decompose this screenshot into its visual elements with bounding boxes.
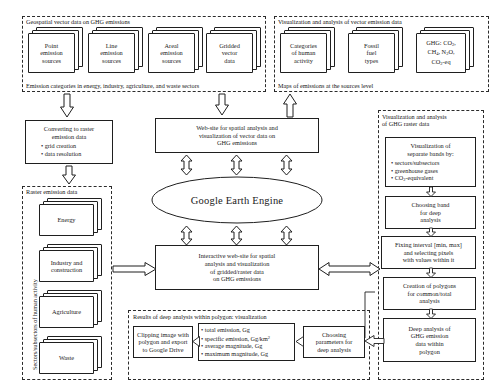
arrow-choosing-band-to-fixing-interval (426, 228, 436, 237)
vis-bands-bullet: • sectors/subsectors (391, 159, 439, 167)
stack-label-line: data (224, 57, 235, 65)
stack-card-front: Waste (39, 342, 94, 374)
converting-line-1: Converting to raster (44, 125, 94, 133)
docstack-gridded-vector-data[interactable]: Gridded vector data (206, 27, 261, 75)
diagram-canvas: Geospatial vector data on GHG emissions … (0, 0, 497, 390)
stack-label-line: construction (51, 266, 82, 274)
stack-label-line: Point (45, 42, 58, 50)
stack-label-line: Line (106, 42, 118, 50)
clipping-line-3: to Google Drive (143, 346, 184, 354)
panel-deep-analysis-results-title: Results of deep analysis within polygon:… (133, 313, 267, 320)
stack-card-front: Point emission sources (28, 33, 75, 73)
stack-label-line: of human (292, 49, 316, 57)
arrow-website-gee-left (180, 155, 193, 175)
vis-bands-bullet: • CO2-equivalent (391, 174, 439, 184)
arrow-website-gee-right (280, 155, 293, 175)
arrow-gee-raster-center (230, 226, 243, 245)
metric-bullet: • total emission, Gg (201, 326, 250, 334)
stack-label-line: Gridded (219, 42, 240, 50)
stack-label-line: Waste (59, 354, 74, 362)
docstack-areal-emission-sources[interactable]: Areal emission sources (148, 27, 203, 75)
box-interactive-raster-website[interactable]: Interactive web-site for spatial analysi… (155, 245, 319, 290)
choosing-params-line-1: Choosing (322, 331, 346, 339)
docstack-point-emission-sources[interactable]: Point emission sources (28, 27, 83, 75)
clipping-line-2: polygon and export (139, 338, 188, 346)
stack-card-front: Categories of human activity (280, 33, 327, 73)
google-earth-engine-label: Google Earth Engine (151, 195, 323, 206)
box-clipping-image-export[interactable]: Clipping image with polygon and export t… (133, 326, 193, 358)
arrow-gee-raster-left (180, 226, 193, 245)
visualization-bands-bullets: • sectors/subsectors • greenhouse gases … (391, 159, 439, 184)
box-choosing-parameters[interactable]: Choosing parameters for deep analysis (303, 326, 365, 358)
panel-geospatial-vector-data-title: Geospatial vector data on GHG emissions (26, 18, 130, 25)
vis-bands-bullet: • greenhouse gases (391, 167, 439, 175)
raster-website-line-1: Interactive web-site for spatial (199, 252, 276, 260)
box-deep-analysis-within-polygon[interactable]: Deep analysis of GHG emission data withi… (383, 318, 476, 362)
box-choosing-band[interactable]: Choosing band for deep analysis (385, 196, 476, 229)
creation-polygons-line-2: for common/total (408, 290, 452, 298)
connector-choosing-parameters-to-website (363, 290, 377, 338)
panel-raster-visualization-title: Visualization and analysis of GHG raster… (382, 113, 480, 128)
raster-vis-title-line-2: of GHG raster data (382, 120, 429, 127)
panel-vector-visualization-title: Visualization and analysis of vector emi… (278, 18, 402, 25)
arrow-gee-raster-right (280, 226, 293, 245)
docstack-ghg-gases[interactable]: GHG: CO2, CH4, N2O, CO2-eq (416, 27, 474, 75)
stack-card-front: Areal emission sources (148, 33, 195, 73)
raster-vis-title-line-1: Visualization and analysis (382, 113, 447, 120)
docstack-energy[interactable]: Energy (39, 198, 105, 238)
stack-label-line: vector (222, 49, 238, 57)
choosing-band-line-2: for deep (420, 209, 441, 217)
deep-analysis-line-4: polygon (419, 348, 440, 356)
stack-label-line: Agriculture (52, 308, 81, 316)
choosing-band-line-1: Choosing band (412, 201, 450, 209)
panel-raster-side-label: Sectors/subsectors of human activity (31, 279, 38, 370)
stack-label-line: sources (42, 57, 61, 65)
docstack-line-emission-sources[interactable]: Line emission sources (88, 27, 143, 75)
stack-label-line: Energy (57, 216, 75, 224)
ghg-line-3: CO2-eq (431, 58, 450, 67)
stack-label-line: emission (100, 49, 122, 57)
stack-card-front: Industry and construction (39, 250, 94, 282)
raster-website-line-3: of gridded/raster data (210, 268, 264, 276)
arrow-metrics-to-clipping (192, 336, 200, 347)
raster-website-line-4: on GHG emissions (213, 275, 261, 283)
stack-card-front: Line emission sources (88, 33, 135, 73)
stack-label-line: emission (40, 49, 62, 57)
box-deep-analysis-metrics[interactable]: • total emission, Gg • specific emission… (198, 323, 295, 361)
deep-analysis-line-3: data within (415, 340, 443, 348)
stack-label-line: Fossil (364, 42, 379, 50)
docstack-waste[interactable]: Waste (39, 336, 105, 376)
arrow-website-to-vector-visualization (283, 94, 297, 118)
stack-label-line: Areal (165, 42, 179, 50)
docstack-categories-of-human-activity[interactable]: Categories of human activity (280, 27, 335, 75)
vector-website-line-3: GHG emissions (217, 139, 257, 147)
fixing-interval-line-3: with values within it (403, 256, 455, 264)
metric-bullet: • maximum magnitude, Gg (201, 350, 268, 358)
stack-label-line: activity (294, 57, 313, 65)
converting-line-2: emission data (52, 133, 86, 141)
clipping-line-1: Clipping image with (137, 331, 189, 339)
arrow-creation-polygons-to-deep-analysis (426, 309, 436, 319)
metric-bullet: • average magnitude, Gg (201, 342, 262, 350)
stack-label-line: Industry and (51, 259, 83, 267)
converting-bullet: • data resolution (41, 150, 81, 158)
docstack-fossil-fuel-types[interactable]: Fossil fuel types (348, 27, 403, 75)
converting-bullets: • grid creation • data resolution (41, 142, 81, 157)
deep-analysis-line-2: GHG emission (411, 332, 449, 340)
deep-analysis-line-1: Deep analysis of (409, 325, 451, 333)
docstack-agriculture[interactable]: Agriculture (39, 290, 105, 330)
arrow-vector-data-to-converting (60, 94, 74, 118)
docstack-industry-and-construction[interactable]: Industry and construction (39, 244, 105, 284)
stack-card-front: Energy (39, 204, 94, 236)
node-google-earth-engine[interactable]: Google Earth Engine (151, 176, 323, 224)
box-creation-of-polygons[interactable]: Creation of polygons for common/total an… (383, 277, 476, 310)
stack-label-line: emission (160, 49, 182, 57)
creation-polygons-line-1: Creation of polygons (403, 282, 456, 290)
vis-bands-line-2: separate bands by: (407, 150, 454, 158)
vis-bands-line-1: Visualization of (410, 142, 450, 150)
stack-label-line: fuel (367, 49, 377, 57)
arrow-website-gee-center (230, 155, 243, 175)
box-fixing-interval[interactable]: Fixing interval [min, max] and selecting… (381, 236, 476, 269)
vector-website-line-1: Web-site for spatial analysis and (196, 124, 278, 132)
box-vector-website[interactable]: Web-site for spatial analysis and visual… (155, 118, 319, 153)
